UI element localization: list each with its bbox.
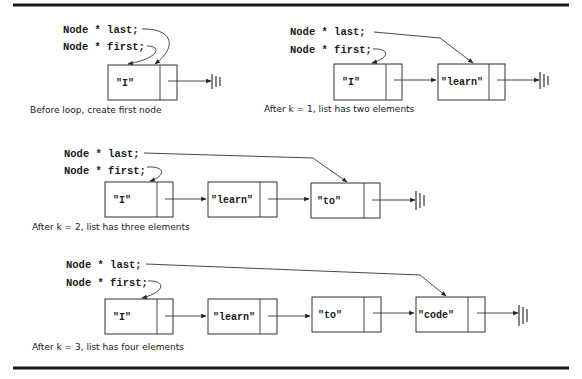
last-declaration: Node * last; [290,26,366,38]
first-declaration: Node * first; [63,41,145,53]
null-ground-icon [416,191,424,210]
linked-list-diagram: Node * last; Node * first; "I" Before lo… [0,0,582,379]
last-declaration: Node * last; [66,259,142,271]
node-code: "code" [416,297,485,332]
last-declaration: Node * last; [63,24,139,36]
null-ground-icon [212,74,220,89]
stage-3: Node * last; Node * first; "I" "learn" "… [32,259,527,352]
node-value: "I" [342,77,360,88]
stage-0: Node * last; Node * first; "I" Before lo… [30,24,220,115]
null-ground-icon [519,305,527,326]
node-value: "I" [116,78,134,89]
node-value: "I" [113,195,131,206]
last-pointer-arrow [146,264,446,296]
node-value: "to" [317,196,341,207]
null-ground-icon [540,72,548,89]
node-i: "I" [105,299,173,334]
node-i: "I" [334,64,402,100]
stage-caption: After k = 2, list has three elements [32,222,190,232]
stage-caption: After k = 1, list has two elements [264,104,415,114]
node-value: "learn" [213,312,255,323]
stage-caption: Before loop, create first node [30,105,162,115]
last-pointer-arrow [144,153,347,182]
first-pointer-arrow [372,49,386,63]
first-declaration: Node * first; [64,165,146,177]
node-to: "to" [312,297,381,332]
node-learn: "learn" [438,64,505,100]
stage-1: Node * last; Node * first; "I" "learn" A… [264,26,548,114]
node-to: "to" [311,183,380,218]
node-value: "learn" [211,195,253,206]
node-i: "I" [108,65,177,100]
first-declaration: Node * first; [66,277,148,289]
node-value: "code" [418,310,454,321]
last-pointer-arrow [374,32,473,63]
node-learn: "learn" [208,299,277,334]
first-pointer-arrow [147,167,162,181]
last-declaration: Node * last; [64,148,140,160]
first-declaration: Node * first; [290,44,372,56]
node-i: "I" [105,182,173,217]
node-learn: "learn" [208,182,277,217]
node-value: "learn" [441,77,483,88]
stage-caption: After k = 3, list has four elements [32,342,184,352]
node-value: "I" [113,312,131,323]
stage-2: Node * last; Node * first; "I" "learn" "… [32,148,424,232]
node-value: "to" [318,310,342,321]
